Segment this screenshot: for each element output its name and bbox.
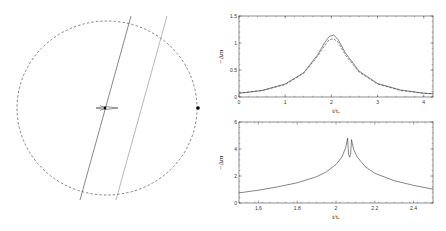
x-tick-label: 1.8 (294, 205, 301, 211)
x-tick-label: 0 (238, 99, 241, 105)
einstein-ring-circle (17, 21, 197, 195)
x-tick-label: 2.4 (410, 205, 417, 211)
y-tick-label: 1 (234, 40, 237, 46)
caustic-diagram (17, 16, 200, 200)
source-trajectories (80, 16, 167, 200)
x-tick-label: 2 (335, 205, 338, 211)
plot-frame (239, 16, 433, 97)
x-tick-label: 2 (330, 99, 333, 105)
caustic-icon (96, 106, 118, 111)
x-tick-label: 1.6 (255, 205, 262, 211)
y-tick-label: 0 (234, 94, 237, 100)
series-solid (239, 35, 433, 94)
plot-frame (239, 122, 433, 203)
x-tick-label: 3 (376, 99, 379, 105)
figure-canvas: 0123400.511.5t/tₑ−Δm 1.61.822.22.40246t/… (0, 0, 446, 231)
x-tick-label: 2.2 (371, 205, 378, 211)
light-curve-chart-top: 0123400.511.5t/tₑ−Δm (217, 13, 433, 115)
y-tick-label: 0.5 (230, 67, 237, 73)
y-tick-label: 0 (234, 200, 237, 206)
y-axis-label: −Δm (217, 49, 225, 63)
y-tick-label: 4 (234, 146, 237, 152)
x-axis-label: t/tₑ (332, 213, 340, 221)
lens-center-point (104, 107, 107, 110)
y-tick-label: 6 (234, 119, 237, 125)
y-axis-label: −Δm (217, 155, 225, 169)
edge-point (196, 106, 200, 110)
y-tick-label: 1.5 (230, 13, 237, 19)
x-axis-label: t/tₑ (332, 107, 340, 115)
x-tick-label: 1 (284, 99, 287, 105)
x-tick-label: 4 (422, 99, 425, 105)
series-solid (239, 138, 433, 193)
light-curve-chart-bottom: 1.61.822.22.40246t/tₑ−Δm (217, 119, 433, 221)
y-tick-label: 2 (234, 173, 237, 179)
series-dashed (239, 39, 433, 94)
